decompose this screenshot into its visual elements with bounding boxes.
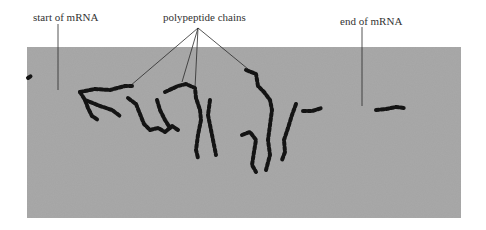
chain-fragment-left: [28, 76, 31, 78]
micrograph-overlay: [0, 0, 486, 230]
